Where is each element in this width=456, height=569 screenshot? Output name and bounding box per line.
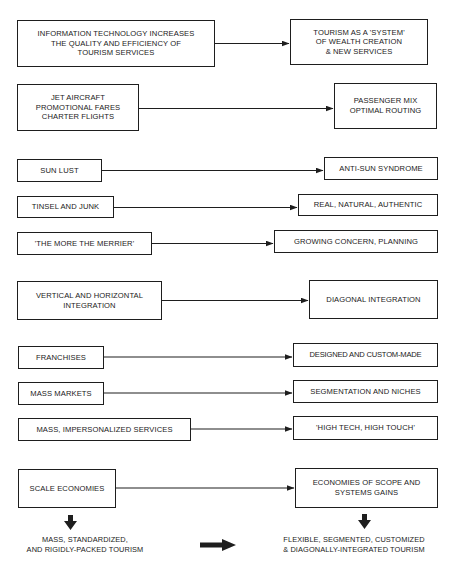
to-box-high-tech-high-touch: 'HIGH TECH, HIGH TOUCH' [293,416,438,440]
from-box-information-technology: INFORMATION TECHNOLOGY INCREASES THE QUA… [17,20,215,67]
box-label: VERTICAL AND HORIZONTAL INTEGRATION [36,291,143,310]
to-box-real-natural-authentic: REAL, NATURAL, AUTHENTIC [298,194,438,216]
to-box-anti-sun-syndrome: ANTI-SUN SYNDROME [324,157,438,180]
to-box-economies-of-scope: ECONOMIES OF SCOPE AND SYSTEMS GAINS [295,468,438,508]
box-label: 'HIGH TECH, HIGH TOUCH' [316,423,415,433]
box-label: 'THE MORE THE MERRIER' [35,239,134,249]
box-label: TOURISM AS A 'SYSTEM' OF WEALTH CREATION… [313,28,404,57]
transition-arrow-icon [200,539,236,551]
to-box-designed-custom-made: DESIGNED AND CUSTOM-MADE [293,343,438,367]
box-label: INFORMATION TECHNOLOGY INCREASES THE QUA… [38,29,195,58]
from-box-more-the-merrier: 'THE MORE THE MERRIER' [17,232,152,255]
outcome-old-tourism: MASS, STANDARDIZED, AND RIGIDLY-PACKED T… [10,535,160,554]
box-label: GROWING CONCERN, PLANNING [294,237,418,247]
to-box-growing-concern: GROWING CONCERN, PLANNING [274,230,438,253]
box-label: MASS MARKETS [30,389,92,399]
to-box-tourism-system: TOURISM AS A 'SYSTEM' OF WEALTH CREATION… [290,19,428,65]
box-label: ECONOMIES OF SCOPE AND SYSTEMS GAINS [313,478,421,497]
box-label: SEGMENTATION AND NICHES [310,387,420,397]
box-label: SCALE ECONOMIES [30,484,105,494]
from-box-mass-markets: MASS MARKETS [18,382,104,405]
from-box-scale-economies: SCALE ECONOMIES [18,469,116,508]
box-label: PASSENGER MIX OPTIMAL ROUTING [350,96,422,115]
box-label: MASS, IMPERSONALIZED SERVICES [36,425,172,435]
box-label: ANTI-SUN SYNDROME [339,164,423,174]
from-box-franchises: FRANCHISES [18,346,104,369]
from-box-sun-lust: SUN LUST [17,159,102,182]
box-label: FRANCHISES [36,353,86,363]
from-box-vertical-horizontal-integration: VERTICAL AND HORIZONTAL INTEGRATION [17,281,162,320]
from-box-tinsel-and-junk: TINSEL AND JUNK [17,196,114,218]
box-label: DIAGONAL INTEGRATION [326,295,420,305]
box-label: REAL, NATURAL, AUTHENTIC [314,200,423,210]
outcome-new-tourism: FLEXIBLE, SEGMENTED, CUSTOMIZED & DIAGON… [262,535,446,554]
from-box-jet-aircraft: JET AIRCRAFT PROMOTIONAL FARES CHARTER F… [17,84,139,131]
box-label: DESIGNED AND CUSTOM-MADE [310,350,422,360]
down-arrow-right-icon [358,514,371,529]
box-label: TINSEL AND JUNK [32,202,99,212]
to-box-diagonal-integration: DIAGONAL INTEGRATION [309,280,438,319]
from-box-mass-impersonalized-services: MASS, IMPERSONALIZED SERVICES [18,418,191,441]
down-arrow-left-icon [64,515,77,530]
to-box-passenger-mix: PASSENGER MIX OPTIMAL ROUTING [334,83,437,129]
box-label: JET AIRCRAFT PROMOTIONAL FARES CHARTER F… [36,93,121,122]
box-label: SUN LUST [40,166,78,176]
to-box-segmentation-niches: SEGMENTATION AND NICHES [293,380,438,403]
